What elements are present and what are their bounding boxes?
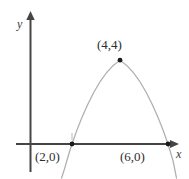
vertex-coordinate-label: (4,4) (97, 38, 122, 51)
vertex-point (118, 58, 123, 63)
plot-canvas (0, 0, 189, 179)
y-axis-arrowhead (26, 11, 34, 20)
right-root-coordinate-label: (6,0) (120, 150, 145, 163)
parabola-curve (62, 60, 177, 178)
root-right-point (166, 142, 171, 147)
left-root-coordinate-label: (2,0) (35, 150, 60, 163)
root-left-point (70, 142, 75, 147)
parabola-graph-figure: y x (4,4) (2,0) (6,0) (0, 0, 189, 179)
x-axis-label: x (176, 148, 181, 160)
y-axis-label: y (17, 18, 22, 30)
